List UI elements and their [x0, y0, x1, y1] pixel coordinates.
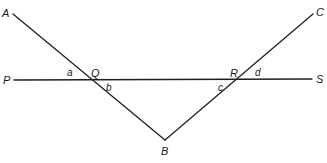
point-label-a-upper: A: [1, 7, 9, 19]
point-label-q: Q: [91, 67, 100, 79]
point-label-b-upper: B: [161, 145, 168, 157]
geometry-diagram: A C P S Q R B a b c d: [0, 0, 327, 163]
point-label-r: R: [230, 67, 238, 79]
line-AB: [13, 14, 165, 140]
angle-label-c: c: [218, 82, 223, 93]
angle-label-b: b: [106, 82, 112, 93]
point-label-s: S: [316, 73, 324, 85]
point-label-c-upper: C: [316, 6, 324, 18]
line-BC: [165, 14, 313, 140]
point-label-p: P: [3, 74, 11, 86]
line-PS: [14, 79, 312, 80]
angle-label-d: d: [255, 67, 261, 78]
angle-label-a: a: [67, 67, 73, 78]
